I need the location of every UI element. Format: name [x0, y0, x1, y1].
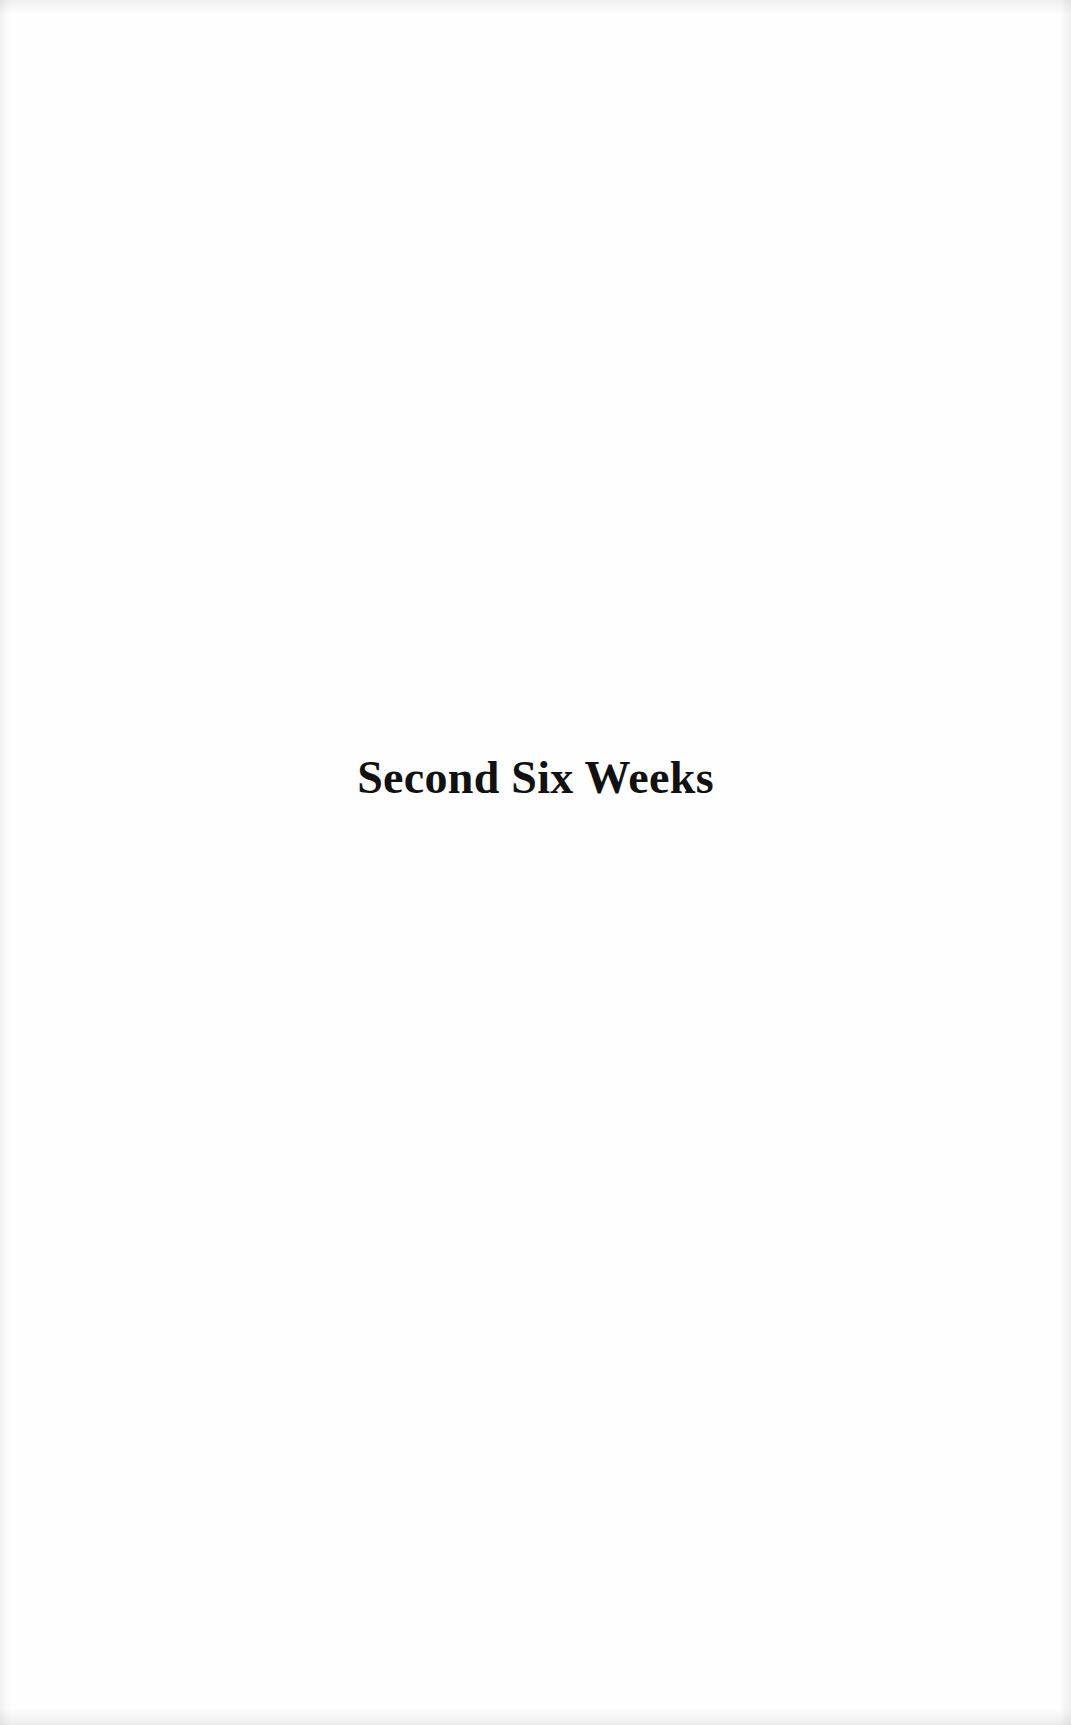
document-page: Second Six Weeks [0, 0, 1071, 1725]
scan-edge-top [0, 0, 1071, 14]
scan-edge-bottom [0, 1707, 1071, 1725]
scan-edge-right [1059, 0, 1071, 1725]
section-title: Second Six Weeks [0, 748, 1071, 808]
scan-edge-left [0, 0, 10, 1725]
